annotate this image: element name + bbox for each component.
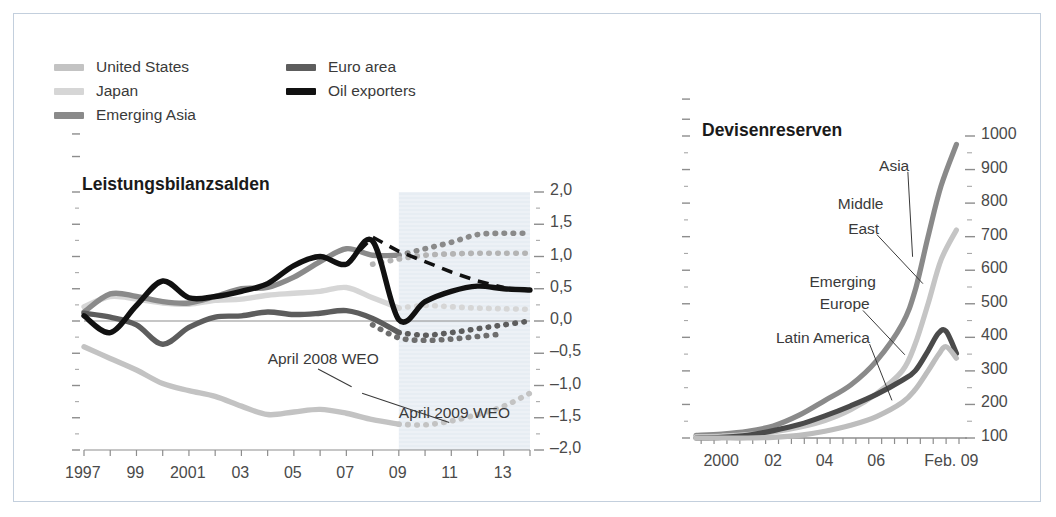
y-tick-label: 600 xyxy=(981,259,1008,277)
y-tick-label: 2,0 xyxy=(550,181,572,199)
y-tick-label: 300 xyxy=(981,360,1008,378)
series-line xyxy=(84,239,530,332)
x-tick-label: 99 xyxy=(126,464,144,482)
y-tick-label: 100 xyxy=(981,427,1008,445)
left-chart-plot xyxy=(14,14,614,503)
x-tick-label: 2000 xyxy=(703,452,739,470)
series-line xyxy=(84,249,399,312)
annotation-leader-line xyxy=(908,172,913,257)
chart-annotation-label: Middle xyxy=(838,195,884,213)
y-tick-label: 400 xyxy=(981,326,1008,344)
chart-devisenreserven: Devisenreserven 100090080070060050040030… xyxy=(614,14,1042,503)
y-tick-label: –1,0 xyxy=(550,375,581,393)
x-tick-label: 09 xyxy=(389,464,407,482)
series-line xyxy=(399,305,530,309)
annotation-leader-line xyxy=(318,369,352,387)
series-line xyxy=(346,237,503,287)
y-tick-label: 500 xyxy=(981,293,1008,311)
series-line xyxy=(399,321,530,335)
y-tick-label: 0,5 xyxy=(550,278,572,296)
chart-annotation-label: Europe xyxy=(820,295,870,313)
series-line xyxy=(399,233,530,255)
x-tick-label: 05 xyxy=(284,464,302,482)
series-line xyxy=(373,325,504,341)
y-tick-label: 0,0 xyxy=(550,310,572,328)
x-tick-label: Feb. 09 xyxy=(924,452,978,470)
series-line xyxy=(696,347,956,438)
y-tick-label: –0,5 xyxy=(550,342,581,360)
chart-annotation-label: East xyxy=(848,220,879,238)
y-tick-label: –2,0 xyxy=(550,439,581,457)
right-chart-plot xyxy=(614,14,1042,503)
figure-frame: United StatesJapanEmerging AsiaEuro area… xyxy=(13,13,1041,502)
chart-leistungsbilanzsalden: Leistungsbilanzsalden 2,01,51,00,50,0–0,… xyxy=(14,14,614,503)
chart-annotation-label: April 2008 WEO xyxy=(268,350,379,368)
annotation-leader-line xyxy=(870,344,892,400)
right-chart-title: Devisenreserven xyxy=(702,120,842,141)
y-tick-label: 1000 xyxy=(981,125,1017,143)
chart-annotation-label: April 2009 WEO xyxy=(399,404,510,422)
y-tick-label: 1,0 xyxy=(550,246,572,264)
annotation-leader-line xyxy=(877,235,923,284)
x-tick-label: 03 xyxy=(231,464,249,482)
y-tick-label: 900 xyxy=(981,159,1008,177)
chart-annotation-label: Latin America xyxy=(776,329,870,347)
x-tick-label: 07 xyxy=(336,464,354,482)
chart-annotation-label: Emerging xyxy=(809,273,875,291)
x-tick-label: 2001 xyxy=(170,464,206,482)
x-tick-label: 1997 xyxy=(65,464,101,482)
series-line xyxy=(373,253,530,264)
x-tick-label: 04 xyxy=(816,452,834,470)
left-chart-title: Leistungsbilanzsalden xyxy=(82,174,270,195)
x-tick-label: 11 xyxy=(441,464,458,482)
chart-annotation-label: Asia xyxy=(879,157,909,175)
y-tick-label: 1,5 xyxy=(550,213,572,231)
y-tick-label: 700 xyxy=(981,226,1008,244)
y-tick-label: 200 xyxy=(981,393,1008,411)
series-line xyxy=(84,287,399,308)
y-tick-label: 800 xyxy=(981,192,1008,210)
series-line xyxy=(84,311,399,345)
y-tick-label: –1,5 xyxy=(550,407,581,425)
x-tick-label: 06 xyxy=(867,452,885,470)
x-tick-label: 13 xyxy=(494,464,512,482)
x-tick-label: 02 xyxy=(764,452,782,470)
